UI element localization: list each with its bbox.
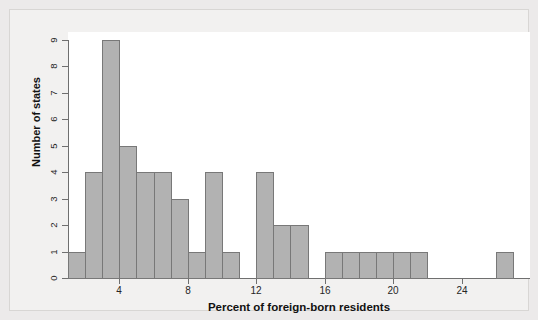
y-tick-mark <box>62 225 68 226</box>
y-tick-label-text: 2 <box>48 218 58 232</box>
y-tick-label: 9 <box>46 35 60 45</box>
histogram-bar <box>359 252 377 279</box>
x-axis-title: Percent of foreign-born residents <box>68 301 530 313</box>
x-tick-label: 12 <box>244 285 268 296</box>
histogram-bar <box>376 252 394 279</box>
histogram-bar <box>154 172 172 279</box>
histogram-bar <box>256 172 274 279</box>
x-tick-mark <box>325 279 326 284</box>
histogram-bar <box>222 252 240 279</box>
y-tick-mark <box>62 199 68 200</box>
y-tick-label: 8 <box>46 61 60 71</box>
y-tick-label-text: 1 <box>48 245 58 259</box>
x-tick-mark <box>256 279 257 284</box>
histogram-bar <box>68 252 86 279</box>
y-tick-mark <box>62 119 68 120</box>
histogram-bar <box>136 172 155 279</box>
histogram-bar <box>205 172 223 279</box>
y-tick-mark <box>62 172 68 173</box>
histogram-bar <box>496 252 514 279</box>
y-tick-mark <box>62 40 68 41</box>
y-tick-label: 2 <box>46 220 60 230</box>
histogram-bar <box>85 172 103 279</box>
histogram-bar <box>290 225 309 279</box>
histogram-bar <box>273 225 291 279</box>
histogram-bar <box>119 146 137 279</box>
y-tick-label: 1 <box>46 247 60 257</box>
x-tick-mark <box>393 279 394 284</box>
histogram-bar <box>188 252 206 279</box>
y-axis-line <box>68 40 69 279</box>
x-tick-label: 16 <box>313 285 337 296</box>
x-tick-label: 8 <box>176 285 200 296</box>
y-tick-label-text: 5 <box>48 139 58 153</box>
x-tick-label: 20 <box>381 285 405 296</box>
y-tick-label: 6 <box>46 114 60 124</box>
y-axis-title: Number of states <box>30 52 42 192</box>
x-tick-mark <box>188 279 189 284</box>
y-tick-label-text: 9 <box>48 33 58 47</box>
histogram-bar <box>171 199 189 279</box>
histogram-bar <box>410 252 428 279</box>
y-tick-label-text: 7 <box>48 86 58 100</box>
x-tick-label: 4 <box>107 285 131 296</box>
x-tick-label: 24 <box>450 285 474 296</box>
x-tick-mark <box>119 279 120 284</box>
histogram-bar <box>393 252 411 279</box>
y-tick-label-text: 4 <box>48 165 58 179</box>
y-tick-label: 3 <box>46 194 60 204</box>
y-tick-label: 5 <box>46 141 60 151</box>
y-tick-label-text: 0 <box>48 271 58 285</box>
y-tick-mark <box>62 146 68 147</box>
histogram-bar <box>342 252 360 279</box>
y-tick-label-text: 3 <box>48 192 58 206</box>
figure-panel: Number of states Percent of foreign-born… <box>9 9 529 311</box>
y-tick-label-text: 6 <box>48 112 58 126</box>
y-tick-label: 7 <box>46 88 60 98</box>
x-tick-mark <box>462 279 463 284</box>
y-tick-label: 4 <box>46 167 60 177</box>
y-tick-mark <box>62 93 68 94</box>
y-tick-label-text: 8 <box>48 59 58 73</box>
y-tick-label: 0 <box>46 273 60 283</box>
figure-outer-frame: Number of states Percent of foreign-born… <box>0 0 538 320</box>
histogram-bar <box>102 40 120 279</box>
histogram-bar <box>325 252 343 279</box>
y-tick-mark <box>62 66 68 67</box>
